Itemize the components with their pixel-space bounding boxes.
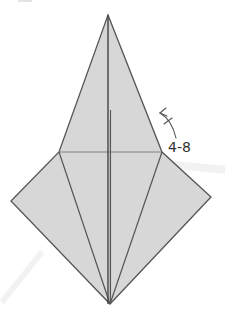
diagram-canvas: 4-8 [0,0,225,318]
origami-diagram [0,0,225,318]
step-reference-label: 4-8 [168,139,191,155]
fold-arrow-icon [160,108,176,138]
paper-model [11,15,211,304]
